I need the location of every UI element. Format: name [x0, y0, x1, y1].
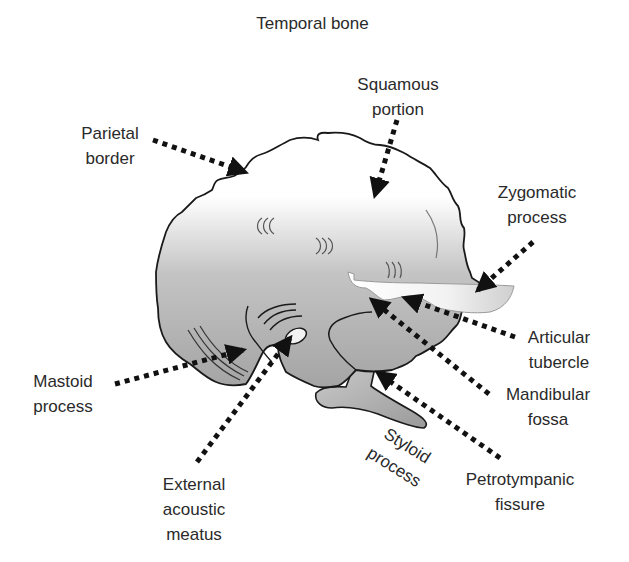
- label-line: meatus: [151, 522, 237, 547]
- label-line: Mastoid: [23, 369, 103, 394]
- label-petrotympanic-fissure: Petrotympanic fissure: [452, 467, 588, 517]
- label-line: tubercle: [519, 350, 599, 375]
- arrow-zygomatic-process: [478, 242, 533, 290]
- label-line: Articular: [519, 325, 599, 350]
- arrow-parietal-border: [153, 140, 245, 172]
- label-line: fossa: [496, 407, 600, 432]
- label-zygomatic-process: Zygomatic process: [487, 180, 587, 230]
- label-line: Squamous: [353, 72, 443, 97]
- label-line: Petrotympanic: [452, 467, 588, 492]
- label-squamous-portion: Squamous portion: [353, 72, 443, 122]
- label-line: Mandibular: [496, 382, 600, 407]
- label-mandibular-fossa: Mandibular fossa: [496, 382, 600, 432]
- label-line: Parietal: [70, 121, 150, 146]
- label-line: process: [487, 205, 587, 230]
- label-parietal-border: Parietal border: [70, 121, 150, 171]
- label-line: fissure: [452, 492, 588, 517]
- label-line: portion: [353, 97, 443, 122]
- label-line: acoustic: [151, 497, 237, 522]
- label-external-acoustic-meatus: External acoustic meatus: [151, 472, 237, 547]
- label-line: border: [70, 146, 150, 171]
- label-line: External: [151, 472, 237, 497]
- label-articular-tubercle: Articular tubercle: [519, 325, 599, 375]
- label-mastoid-process: Mastoid process: [23, 369, 103, 419]
- label-line: process: [23, 394, 103, 419]
- label-line: Zygomatic: [487, 180, 587, 205]
